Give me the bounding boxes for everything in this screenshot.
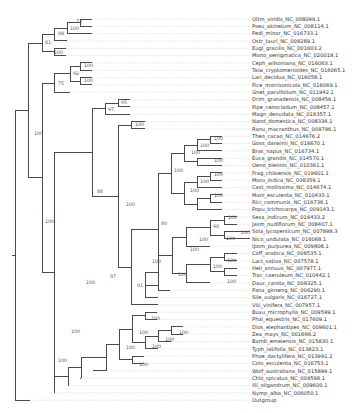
leaf-label: Oeno_biennis_NC_010361.1 (252, 162, 324, 169)
leaf-label: Ranu_macranthus_NC_008796.1 (252, 126, 336, 133)
leaf-label: Cast_mollissima_NC_014674.1 (252, 184, 331, 191)
support-value: 97 (110, 274, 116, 279)
support-value: 100 (34, 131, 43, 136)
support-value: 97 (108, 107, 114, 112)
support-value: 100 (126, 202, 135, 207)
support-value: 100 (190, 247, 199, 252)
leaf-label: Goss_darwinii_NC_016670.1 (252, 140, 325, 147)
support-value: 100 (70, 26, 79, 31)
leaf-label: Nico_undulata_NC_016068.1 (252, 236, 326, 243)
support-value: 100 (126, 345, 135, 350)
support-value: 100 (58, 358, 67, 363)
leaf-label: Mono_aenigmatica_NC_020018.1 (252, 52, 338, 59)
support-value: 73 (76, 19, 82, 24)
leaf-label: Popu_trichocarpa_NC_009143.1 (252, 206, 334, 213)
support-value: 100 (214, 136, 223, 141)
support-value: 100 (200, 179, 209, 184)
leaf-label: Drim_granadensis_NC_008456.1 (252, 96, 336, 103)
support-value: 80 (161, 221, 167, 226)
leaf-label: Lact_sativa_NC_007578.1 (252, 258, 319, 265)
support-value: 100 (190, 188, 199, 193)
leaf-label: Outgroup (252, 397, 277, 404)
support-value: 84 (58, 31, 64, 36)
leaf-label: Pedi_minor_NC_016733.1 (252, 30, 318, 37)
support-value: 100 (213, 264, 222, 269)
leaf-label: Gnet_parvifolium_NC_011942.1 (252, 89, 334, 96)
leaf-label: Ceph_wilsoniana_NC_016063.1 (252, 60, 333, 67)
support-value: 100 (84, 78, 93, 83)
support-value: 100 (214, 158, 223, 163)
leaf-label: Nymp_alba_NC_006050.1 (252, 390, 318, 397)
support-value: 92 (73, 71, 79, 76)
support-values: 7310084811001009210075959710010010010010… (34, 19, 250, 367)
leaf-label: Theo_cacao_NC_014676.2 (251, 133, 320, 140)
leaf-label: Zea_mays_NC_001666.2 (252, 331, 316, 338)
leaf-label: Illi_oligandrum_NC_009600.1 (252, 382, 327, 389)
leaf-label: Buxu_microphylla_NC_009599.1 (252, 309, 336, 316)
support-value: 100 (214, 193, 223, 198)
support-value: 100 (139, 330, 148, 335)
leaf-label: Phal_equestris_NC_017609.1 (252, 316, 327, 323)
support-value: 100 (84, 63, 93, 68)
leaf-label: Moru_indica_NC_008359.1 (252, 177, 321, 184)
leaf-label: Jasm_nudiflorum_NC_008407.1 (251, 221, 333, 228)
leaf-label: Typh_latifolia_NC_013823.1 (251, 346, 323, 353)
leaf-label: Magn_denudata_NC_018357.1 (252, 111, 331, 118)
leaf-label: Rici_communis_NC_016736.1 (252, 199, 328, 206)
leaf-labels: Oltm_viridis_NC_008099.1Pseu_akinetum_NC… (251, 16, 345, 404)
leaf-label: Taiw_cryptomerioides_NC_016065.1 (251, 67, 345, 74)
leaf-label: Oltm_viridis_NC_008099.1 (252, 16, 320, 23)
leaf-label: Eugl_gracilis_NC_001603.2 (252, 45, 322, 52)
support-value: 100 (152, 259, 161, 264)
support-value: 100 (200, 143, 209, 148)
support-value: 100 (199, 237, 208, 242)
support-value: 98 (213, 224, 219, 229)
support-value: 100 (152, 344, 161, 349)
support-value: 100 (214, 172, 223, 177)
leaf-label: Pice_morrisonicola_NC_016069.1 (252, 82, 338, 89)
leaf-label: Chlo_spicatus_NC_009598.1 (252, 375, 325, 382)
support-value: 100 (178, 272, 187, 277)
support-value: 100 (241, 230, 250, 235)
leaf-label: Ipom_purpurea_NC_009808.1 (252, 243, 329, 250)
support-value: 100 (227, 279, 236, 284)
leaf-label: Frag_chiloensis_NC_019601.1 (252, 170, 329, 177)
leaf-label: Pipe_cenocladum_NC_008457.1 (252, 104, 335, 111)
support-value: 100 (71, 329, 80, 334)
support-value: 100 (179, 330, 188, 335)
leaf-label: Wolf_australiana_NC_015899.1 (252, 368, 332, 375)
support-value: 75 (58, 81, 64, 86)
leaf-label: Dios_elephantipes_NC_009601.1 (252, 324, 337, 331)
phylogenetic-tree: 7310084811001009210075959710010010010010… (0, 0, 358, 413)
support-value: 95 (121, 100, 127, 105)
leaf-label: Viti_vinifera_NC_007957.1 (252, 302, 320, 309)
leaf-label: Euca_grandis_NC_014570.1 (252, 155, 324, 162)
support-value: 100 (139, 362, 148, 367)
tree-branches (12, 19, 250, 400)
leaf-label: Mani_esculenta_NC_010433.1 (252, 192, 330, 199)
leaf-label: Ostr_tauri_NC_008289.1 (252, 38, 315, 45)
support-value: 100 (174, 168, 183, 173)
leaf-label: Coff_arabica_NC_008535.1 (252, 250, 322, 257)
support-value: 100 (54, 50, 63, 55)
support-value: 100 (86, 280, 95, 285)
support-value: 100 (227, 258, 236, 263)
support-value: 100 (191, 150, 200, 155)
support-value: 100 (228, 215, 237, 220)
leaf-label: Dauc_carota_NC_008325.1 (252, 280, 322, 287)
support-value: 100 (165, 337, 174, 342)
leaf-label: Bras_napus_NC_016734.1 (252, 148, 319, 155)
leaf-label: Colo_esculenta_NC_016753.1 (252, 360, 329, 367)
leaf-label: Heli_annuus_NC_007977.1 (252, 265, 321, 272)
leaf-label: Sile_vulgaris_NC_016727.1 (252, 294, 322, 301)
leaf-label: Trac_caeruleum_NC_010442.1 (251, 272, 330, 279)
leaf-label: Pseu_akinetum_NC_008114.1 (252, 23, 329, 30)
support-value: 100 (45, 219, 54, 224)
leaf-label: Sesa_indicum_NC_016433.2 (252, 214, 325, 221)
leaf-label: Lari_decidua_NC_016058.1 (252, 74, 322, 81)
support-value: 88 (97, 189, 103, 194)
support-value: 100 (151, 316, 160, 321)
leaf-label: Nand_domestica_NC_008336.1 (252, 118, 333, 125)
leaf-label: Pana_ginseng_NC_006290.1 (252, 287, 325, 294)
leaf-label: Bamb_emeiensis_NC_015830.1 (252, 338, 333, 345)
